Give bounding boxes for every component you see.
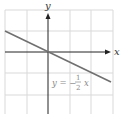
chart: x y y = − 1 2 x [0,0,121,114]
equation-variable: x [84,78,89,88]
x-axis-arrow-icon [105,50,111,55]
grid [5,10,113,114]
x-axis [5,50,111,55]
equation-numerator: 1 [76,74,80,82]
plot-line [5,31,111,82]
x-axis-label: x [114,46,120,57]
equation-lhs: y = − [51,78,76,88]
y-axis-label: y [44,0,51,11]
equation-denominator: 2 [76,84,80,92]
y-axis [46,13,51,114]
y-axis-arrow-icon [46,13,51,19]
